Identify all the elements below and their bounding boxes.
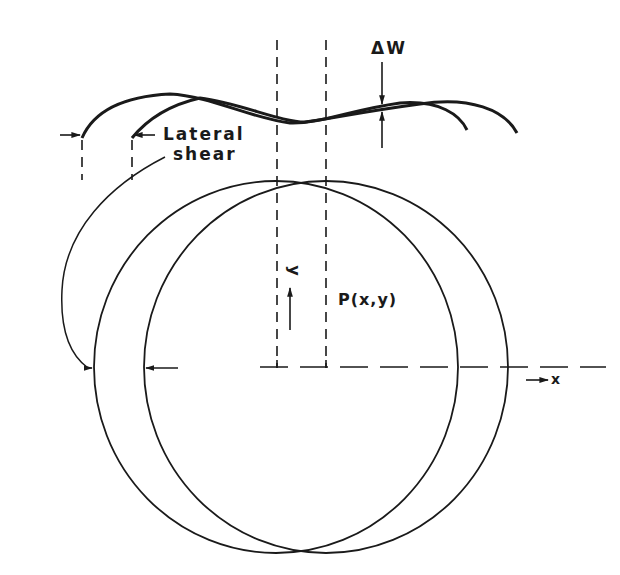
delta-w-label: ΔW bbox=[371, 38, 407, 58]
x-axis-label: x bbox=[551, 371, 562, 387]
y-axis-label: y bbox=[285, 265, 304, 277]
point-label: P(x,y) bbox=[338, 290, 397, 309]
shear-diagram bbox=[0, 0, 620, 575]
lateral-label: Lateral bbox=[163, 124, 245, 144]
leader-curve bbox=[62, 157, 165, 368]
wavefronts bbox=[82, 94, 517, 138]
shear-label: shear bbox=[173, 144, 237, 164]
lateral-shear-leader bbox=[62, 157, 178, 368]
